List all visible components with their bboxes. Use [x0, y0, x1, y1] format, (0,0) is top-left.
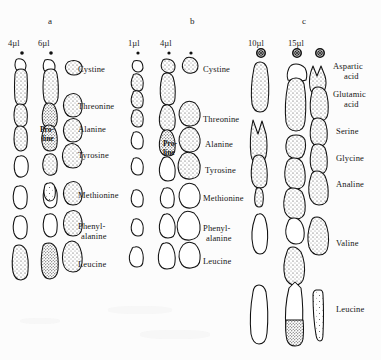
band-label-leucine-a: Leucine — [78, 259, 106, 269]
panel-c-lane-3 — [308, 66, 329, 341]
panel-b-lane-1 — [129, 51, 143, 267]
panel-a-volume-1: 4µl — [8, 38, 20, 48]
band-label-leucine-b: Leucine — [203, 256, 231, 266]
chromatogram-figure: a b c 4µl 6µl 1µl 4µl 10µl 15µl Cystine … — [0, 0, 381, 360]
band-label-alanine-a: Alanine — [78, 124, 106, 134]
panel-c-volume-1: 10µl — [248, 38, 264, 48]
panel-a-lane-2 — [41, 51, 58, 279]
band-label-cystine-a: Cystine — [78, 64, 105, 74]
panel-b-lane-2 — [158, 51, 175, 269]
band-label-phenylalanine-a-line2: alanine — [81, 231, 107, 241]
band-label-aspartic-acid-line1: Aspartic — [333, 61, 363, 71]
band-label-methionine-b: Methionine — [203, 193, 244, 203]
panel-c-volume-2: 15µl — [288, 38, 304, 48]
band-label-threonine-b: Threonine — [203, 114, 239, 124]
band-label-glycine: Glycine — [336, 153, 364, 163]
band-label-valine: Valine — [336, 238, 359, 248]
band-label-analine: Analine — [336, 179, 364, 189]
band-label-aspartic-acid-line2: acid — [344, 71, 359, 81]
annotation-proline-a-line2: line — [42, 135, 54, 144]
band-label-phenylalanine-b-line2: alanine — [206, 233, 232, 243]
panel-c-letter: c — [302, 16, 306, 26]
panel-c-origins — [257, 49, 324, 57]
panel-a-letter: a — [48, 16, 52, 26]
band-label-threonine-a: Threonine — [78, 101, 114, 111]
panel-b-lane-3 — [177, 51, 200, 268]
panel-a-lane-3 — [62, 61, 82, 273]
panel-c-lane-1 — [250, 62, 268, 344]
panel-b-volume-2: 4µl — [160, 38, 172, 48]
panel-b-letter: b — [190, 16, 195, 26]
band-label-glutamic-acid-line2: acid — [344, 99, 359, 109]
band-label-phenylalanine-a-line1: Phenyl- — [78, 221, 106, 231]
panel-a-volume-2: 6µl — [38, 38, 50, 48]
panel-a-lane-1 — [12, 51, 28, 280]
band-label-phenylalanine-b-line1: Phenyl- — [203, 223, 231, 233]
chromatogram-lanes — [0, 0, 381, 360]
band-label-leucine-c: Leucine — [336, 304, 364, 314]
band-label-alanine-b: Alanine — [205, 139, 233, 149]
panel-c-lane-2 — [284, 64, 307, 346]
band-label-serine: Serine — [336, 126, 359, 136]
band-label-tyrosine-b: Tyrosine — [205, 165, 236, 175]
panel-b-volume-1: 1µl — [128, 38, 140, 48]
band-label-methionine-a: Methionine — [78, 190, 119, 200]
band-label-cystine-b: Cystine — [203, 64, 230, 74]
annotation-proline-b-line2: line — [163, 149, 175, 158]
band-label-glutamic-acid-line1: Glutamic — [333, 89, 366, 99]
band-label-tyrosine-a: Tyrosine — [78, 150, 109, 160]
